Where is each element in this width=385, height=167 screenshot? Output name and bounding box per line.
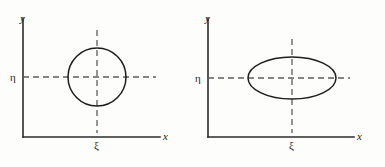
y-axis-label: y	[205, 13, 210, 24]
xi-axis-label: ξ	[94, 140, 99, 151]
xi-axis-label: ξ	[289, 140, 294, 151]
x-axis-label: x	[357, 131, 362, 142]
x-axis-label: x	[163, 131, 168, 142]
panel-ellipse: y x ξ η	[192, 0, 385, 167]
eta-axis-label: η	[195, 73, 201, 84]
figure-container: y x ξ η y x ξ η	[0, 0, 385, 167]
y-axis-label: y	[20, 13, 25, 24]
eta-axis-label: η	[10, 72, 16, 83]
panel-circle: y x ξ η	[0, 0, 192, 167]
